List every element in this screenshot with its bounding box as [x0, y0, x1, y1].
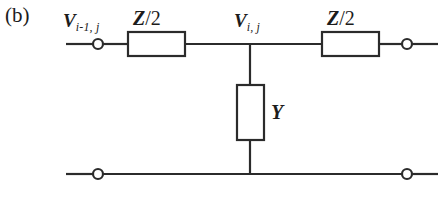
impedance-right-divisor: /2	[339, 7, 355, 29]
impedance-left-divisor: /2	[145, 7, 161, 29]
series-impedance-right-box	[322, 32, 379, 56]
impedance-right-symbol: Z	[327, 7, 339, 29]
series-impedance-left-box	[128, 32, 185, 56]
shunt-admittance-box	[237, 85, 264, 140]
admittance-label: Y	[271, 102, 283, 122]
voltage-label-mid: Vi, j	[234, 11, 260, 33]
voltage-mid-subscript: i, j	[247, 20, 260, 34]
impedance-label-right: Z/2	[327, 8, 355, 28]
panel-label: (b)	[5, 5, 30, 26]
terminal-top-right-icon	[402, 39, 412, 49]
voltage-left-subscript: i-1, j	[76, 20, 100, 34]
voltage-label-left: Vi-1, j	[63, 11, 100, 33]
impedance-label-left: Z/2	[133, 8, 161, 28]
impedance-left-symbol: Z	[133, 7, 145, 29]
terminal-bottom-left-icon	[93, 169, 103, 179]
terminal-top-left-icon	[93, 39, 103, 49]
voltage-left-symbol: V	[63, 10, 76, 31]
circuit-figure: (b) Vi-1, j Vi, j Z/2 Z/2 Y	[0, 0, 438, 197]
voltage-mid-symbol: V	[234, 10, 247, 31]
terminal-bottom-right-icon	[402, 169, 412, 179]
